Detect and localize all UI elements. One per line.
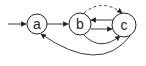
node-b-label: b <box>76 16 84 32</box>
node-c-label: c <box>121 17 128 33</box>
edge-b-to-c-dashed <box>84 6 122 14</box>
edge-b-to-c-arc <box>84 35 120 44</box>
node-b: b <box>69 13 91 35</box>
node-a: a <box>27 14 47 34</box>
edge-c-to-a-arc <box>41 34 130 55</box>
state-diagram: a b c <box>0 0 146 66</box>
node-c: c <box>112 13 136 37</box>
node-a-label: a <box>33 16 41 32</box>
